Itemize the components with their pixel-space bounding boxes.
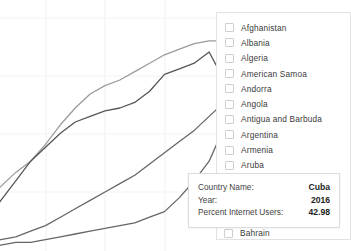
legend-item-label: Armenia — [241, 145, 273, 155]
checkbox-icon[interactable] — [225, 130, 234, 139]
tooltip-label: Percent Internet Users: — [198, 206, 283, 219]
legend-item-algeria[interactable]: Algeria — [217, 51, 350, 66]
tooltip-row: Percent Internet Users:42.98 — [198, 206, 330, 219]
legend-item-antigua-and-barbuda[interactable]: Antigua and Barbuda — [217, 112, 350, 127]
legend-item-label: Andorra — [241, 84, 272, 94]
legend-item-label: Aruba — [241, 160, 264, 170]
checkbox-icon[interactable] — [225, 54, 234, 63]
internet-users-line-chart-app: AfghanistanAlbaniaAlgeriaAmerican SamoaA… — [0, 0, 351, 251]
chart-tooltip: Country Name:CubaYear:2016Percent Intern… — [188, 173, 340, 228]
checkbox-icon[interactable] — [225, 146, 234, 155]
country-legend-list[interactable]: AfghanistanAlbaniaAlgeriaAmerican SamoaA… — [217, 20, 350, 173]
legend-item-bahrain[interactable]: Bahrain — [224, 228, 270, 238]
legend-item-label: Angola — [241, 99, 268, 109]
checkbox-icon[interactable] — [225, 161, 234, 170]
legend-item-label: Bahrain — [240, 228, 270, 238]
tooltip-row: Country Name:Cuba — [198, 181, 330, 194]
legend-item-label: Albania — [241, 38, 270, 48]
legend-item-afghanistan[interactable]: Afghanistan — [217, 20, 350, 35]
tooltip-label: Year: — [198, 194, 217, 207]
legend-item-label: Afghanistan — [241, 23, 287, 33]
legend-item-albania[interactable]: Albania — [217, 35, 350, 50]
legend-item-label: American Samoa — [241, 69, 307, 79]
tooltip-value: Cuba — [303, 181, 330, 194]
checkbox-icon[interactable] — [225, 38, 234, 47]
legend-item-label: Algeria — [241, 53, 268, 63]
tooltip-rows: Country Name:CubaYear:2016Percent Intern… — [198, 181, 330, 219]
checkbox-icon[interactable] — [225, 69, 234, 78]
tooltip-value: 2016 — [305, 194, 330, 207]
legend-item-aruba[interactable]: Aruba — [217, 158, 350, 173]
legend-item-angola[interactable]: Angola — [217, 96, 350, 111]
checkbox-icon[interactable] — [225, 100, 234, 109]
tooltip-label: Country Name: — [198, 181, 254, 194]
checkbox-icon[interactable] — [225, 84, 234, 93]
tooltip-value: 42.98 — [302, 206, 330, 219]
checkbox-icon[interactable] — [224, 229, 233, 238]
legend-item-argentina[interactable]: Argentina — [217, 127, 350, 142]
legend-item-label: Antigua and Barbuda — [241, 114, 322, 124]
legend-item-armenia[interactable]: Armenia — [217, 142, 350, 157]
legend-item-american-samoa[interactable]: American Samoa — [217, 66, 350, 81]
checkbox-icon[interactable] — [225, 23, 234, 32]
tooltip-row: Year:2016 — [198, 194, 330, 207]
legend-item-andorra[interactable]: Andorra — [217, 81, 350, 96]
legend-item-label: Argentina — [241, 130, 278, 140]
checkbox-icon[interactable] — [225, 115, 234, 124]
